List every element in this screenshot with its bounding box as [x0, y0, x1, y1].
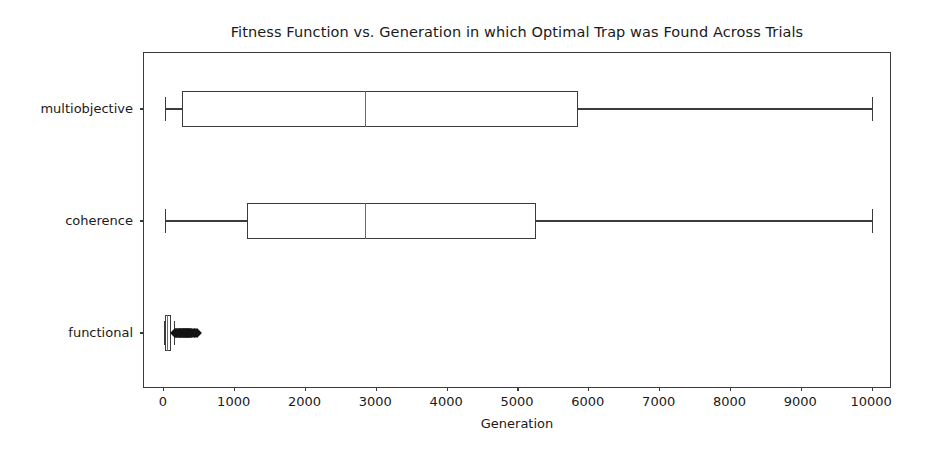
x-tick-label: 7000	[642, 394, 675, 409]
x-tick-mark	[730, 387, 731, 391]
x-tick-label: 2000	[288, 394, 321, 409]
x-tick-label: 3000	[359, 394, 392, 409]
x-tick-mark	[376, 387, 377, 391]
x-tick-mark	[801, 387, 802, 391]
page-title: Fitness Function vs. Generation in which…	[143, 24, 891, 40]
box-multiobjective	[182, 91, 578, 127]
x-tick-label: 0	[159, 394, 167, 409]
x-tick-mark	[659, 387, 660, 391]
whisker-low-coherence	[165, 220, 247, 221]
y-tick-mark	[140, 108, 144, 109]
y-tick-label-functional: functional	[0, 325, 133, 340]
median-functional	[167, 315, 168, 351]
plot-area	[143, 52, 891, 388]
cap-high-coherence	[872, 209, 873, 232]
x-tick-mark	[163, 387, 164, 391]
x-tick-label: 4000	[430, 394, 463, 409]
y-tick-mark	[140, 220, 144, 221]
box-coherence	[247, 203, 535, 239]
cap-low-coherence	[165, 209, 166, 232]
median-coherence	[365, 203, 366, 239]
x-tick-label: 9000	[784, 394, 817, 409]
x-tick-mark	[447, 387, 448, 391]
y-tick-mark	[140, 332, 144, 333]
x-tick-label: 10000	[850, 394, 891, 409]
whisker-low-multiobjective	[165, 108, 182, 109]
x-tick-label: 8000	[713, 394, 746, 409]
median-multiobjective	[365, 91, 366, 127]
cap-high-multiobjective	[872, 97, 873, 120]
x-tick-mark	[588, 387, 589, 391]
y-tick-label-coherence: coherence	[0, 213, 133, 228]
x-tick-label: 5000	[500, 394, 533, 409]
x-tick-mark	[872, 387, 873, 391]
box-plot-figure: Fitness Function vs. Generation in which…	[0, 0, 926, 457]
x-tick-mark	[305, 387, 306, 391]
x-tick-label: 6000	[571, 394, 604, 409]
cap-low-multiobjective	[165, 97, 166, 120]
x-axis-label: Generation	[143, 416, 891, 431]
x-tick-mark	[234, 387, 235, 391]
x-tick-mark	[517, 387, 518, 391]
whisker-high-coherence	[536, 220, 872, 221]
y-tick-label-multiobjective: multiobjective	[0, 101, 133, 116]
whisker-high-multiobjective	[578, 108, 872, 109]
x-tick-label: 1000	[217, 394, 250, 409]
